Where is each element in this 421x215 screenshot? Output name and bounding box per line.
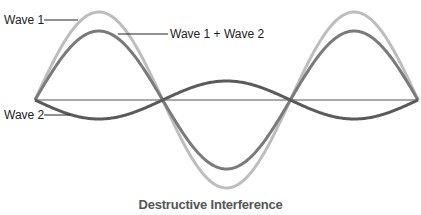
wave-1-label: Wave 1: [4, 13, 44, 27]
wave-2-label: Wave 2: [4, 108, 44, 122]
wave-sum-label: Wave 1 + Wave 2: [170, 27, 264, 41]
diagram-caption: Destructive Interference: [0, 197, 421, 212]
